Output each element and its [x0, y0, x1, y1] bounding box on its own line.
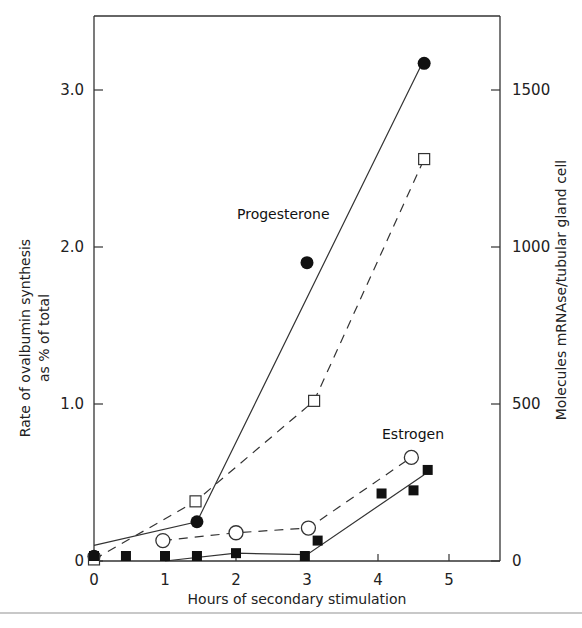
x-axis-title: Hours of secondary stimulation — [188, 591, 407, 607]
plot-frame — [94, 16, 500, 561]
page-divider — [0, 612, 582, 614]
y2-axis-title: Molecules mRNAse/tubular gland cell — [553, 160, 569, 420]
filled-square-marker — [300, 551, 310, 561]
y2-tick-label: 500 — [512, 395, 541, 413]
series-markers — [88, 57, 433, 565]
x-tick-label: 0 — [89, 571, 99, 589]
y-axis-title-line2: as % of total — [36, 294, 52, 382]
filled-square-marker — [89, 551, 99, 561]
y-tick-label: 2.0 — [60, 238, 84, 256]
annotation-estrogen: Estrogen — [382, 426, 444, 442]
chart: 01234501.02.03.0050010001500 Hours of se… — [0, 0, 582, 628]
filled-circle-marker — [190, 515, 203, 528]
open-circle-marker — [301, 521, 315, 535]
axis-labels: Hours of secondary stimulation Rate of o… — [17, 160, 569, 607]
y2-tick-label: 1500 — [512, 81, 550, 99]
y-tick-label: 0 — [74, 552, 84, 570]
filled-square-marker — [313, 536, 323, 546]
annotation-progesterone: Progesterone — [237, 206, 330, 222]
y2-tick-label: 0 — [512, 552, 522, 570]
axis-ticks: 01234501.02.03.0050010001500 — [60, 81, 550, 589]
open-square-marker — [190, 496, 201, 507]
y2-tick-label: 1000 — [512, 238, 550, 256]
x-tick-label: 3 — [302, 571, 312, 589]
x-tick-label: 2 — [231, 571, 241, 589]
series-lines — [94, 66, 424, 561]
x-tick-label: 5 — [444, 571, 454, 589]
series-line — [94, 66, 421, 545]
open-circle-marker — [404, 450, 418, 464]
open-circle-marker — [156, 534, 170, 548]
open-square-marker — [419, 154, 430, 165]
y-tick-label: 3.0 — [60, 81, 84, 99]
filled-square-marker — [409, 485, 419, 495]
y-tick-label: 1.0 — [60, 395, 84, 413]
open-circle-marker — [229, 526, 243, 540]
filled-square-marker — [121, 551, 131, 561]
filled-circle-marker — [418, 57, 431, 70]
filled-square-marker — [192, 551, 202, 561]
filled-square-marker — [423, 465, 433, 475]
filled-square-marker — [377, 488, 387, 498]
filled-square-marker — [160, 551, 170, 561]
x-tick-label: 4 — [373, 571, 383, 589]
open-square-marker — [309, 395, 320, 406]
filled-circle-marker — [301, 256, 314, 269]
filled-square-marker — [231, 548, 241, 558]
series-line — [165, 475, 424, 561]
y-axis-title-line1: Rate of ovalbumin synthesis — [17, 239, 33, 437]
x-tick-label: 1 — [160, 571, 170, 589]
